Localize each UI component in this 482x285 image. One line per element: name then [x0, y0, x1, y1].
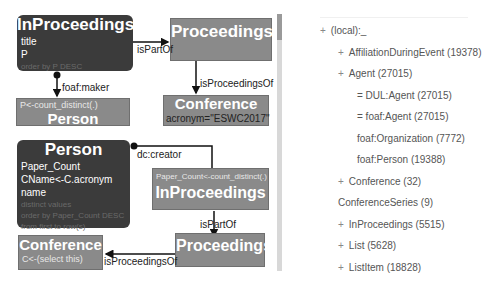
edge-label-dc-creator: dc:creator: [137, 149, 181, 160]
tree-item-foaf-organization[interactable]: foaf:Organization (7772): [357, 133, 465, 144]
edge-label-ispartof-top: isPartOf: [137, 44, 173, 55]
expand-icon[interactable]: +: [338, 68, 344, 79]
node-selection: C<-(select this): [19, 253, 102, 265]
tree-item-label: Conference (32): [349, 176, 421, 187]
node-title: Proceedings: [171, 19, 271, 42]
edge-label-foaf-maker: foaf:maker: [62, 82, 109, 93]
node-field: name: [17, 186, 130, 199]
node-filter: acronym="ESWC2017": [164, 112, 268, 125]
node-proceedings-bottom[interactable]: Proceedings: [175, 233, 265, 267]
query-diagram-canvas: InProceedings title P order by P DESC Pr…: [0, 0, 290, 285]
node-aggregate: Paper_Count<-count_distinct(.): [153, 169, 268, 183]
node-field: Paper_Count: [17, 160, 130, 173]
tree-item-label: ConferenceSeries (9): [338, 197, 433, 208]
edge-label-ispartof-bottom: isPartOf: [200, 219, 236, 230]
tree-item-label: foaf:Person (19388): [357, 154, 445, 165]
scrollbar-thumb[interactable]: [277, 14, 282, 40]
node-title: Person: [17, 111, 129, 126]
node-modifier: order by P DESC: [17, 61, 133, 72]
tree-item-label: InProceedings (5515): [349, 219, 445, 230]
scrollbar[interactable]: [277, 14, 282, 271]
node-field: CName<-C.acronym: [17, 173, 130, 186]
node-conference-bottom[interactable]: Conference C<-(select this): [18, 235, 103, 270]
node-person-top[interactable]: P<-count_distinct(.) Person: [16, 98, 130, 126]
expand-icon[interactable]: +: [320, 25, 326, 36]
node-title: InProceedings: [153, 183, 268, 203]
expand-icon[interactable]: +: [338, 176, 344, 187]
edge-label-isproceedingsof-bottom: isProceedingsOf: [104, 256, 177, 267]
tree-item-conference[interactable]: +Conference (32): [338, 176, 421, 187]
class-tree-panel: +(local):_ +AffiliationDuringEvent (1937…: [300, 0, 468, 285]
tree-item-listitem[interactable]: +ListItem (18828): [338, 262, 421, 273]
node-title: Person: [17, 140, 130, 160]
tree-item-label: AffiliationDuringEvent (19378): [349, 47, 482, 58]
tree-item-label: List (5628): [349, 240, 396, 251]
tree-item-label: ListItem (18828): [349, 262, 421, 273]
tree-item-foaf-agent[interactable]: = foaf:Agent (27015): [357, 111, 448, 122]
tree-item-foaf-person[interactable]: foaf:Person (19388): [357, 154, 445, 165]
node-field: P: [17, 48, 133, 61]
node-inproceedings-top[interactable]: InProceedings title P order by P DESC: [17, 15, 133, 71]
tree-item-dul-agent[interactable]: = DUL:Agent (27015): [357, 90, 452, 101]
node-title: InProceedings: [17, 15, 133, 35]
node-title: Proceedings: [176, 234, 264, 256]
node-conference-top[interactable]: Conference acronym="ESWC2017": [163, 95, 269, 126]
tree-item-label: foaf:Organization (7772): [357, 133, 465, 144]
tree-item-local[interactable]: +(local):_: [320, 25, 366, 36]
tree-item-label: = DUL:Agent (27015): [357, 90, 452, 101]
tree-item-agent[interactable]: +Agent (27015): [338, 68, 412, 79]
node-person-bottom[interactable]: Person Paper_Count CName<-C.acronym name…: [17, 140, 130, 228]
expand-icon[interactable]: +: [338, 240, 344, 251]
node-field: title: [17, 35, 133, 48]
tree-item-conference-series[interactable]: ConferenceSeries (9): [338, 197, 433, 208]
node-title: Conference: [164, 96, 268, 112]
tree-item-label: = foaf:Agent (27015): [357, 111, 448, 122]
tree-item-label: Agent (27015): [349, 68, 412, 79]
expand-icon[interactable]: +: [338, 47, 344, 58]
tree-item-list[interactable]: +List (5628): [338, 240, 396, 251]
expand-icon[interactable]: +: [338, 219, 344, 230]
expand-icon[interactable]: +: [338, 262, 344, 273]
node-modifier: order by Paper_Count DESC: [17, 210, 130, 221]
node-proceedings-top[interactable]: Proceedings: [170, 18, 272, 61]
node-modifier: distinct values: [17, 199, 130, 210]
tree-item-affiliation[interactable]: +AffiliationDuringEvent (19378): [338, 47, 482, 58]
node-title: Conference: [19, 236, 102, 253]
node-modifier: from first to row(s): [17, 221, 130, 232]
node-inproceedings-bottom[interactable]: Paper_Count<-count_distinct(.) InProceed…: [152, 168, 269, 210]
tree-item-label: (local):_: [331, 25, 367, 36]
edge-label-isproceedingsof-top: isProceedingsOf: [200, 78, 273, 89]
tree-item-inproceedings[interactable]: +InProceedings (5515): [338, 219, 444, 230]
